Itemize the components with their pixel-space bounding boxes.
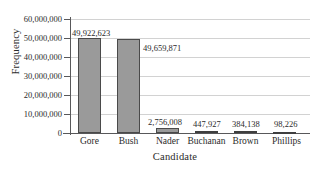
y-tick-60000000 (64, 19, 71, 20)
bar-brown (234, 131, 257, 133)
x-tick-label-brown: Brown (225, 136, 266, 146)
x-axis-title: Candidate (120, 151, 230, 162)
x-tick-label-nader: Nader (147, 136, 188, 146)
y-tick-20000000 (64, 95, 71, 96)
value-label-brown: 384,138 (232, 119, 260, 129)
bar-buchanan (195, 131, 218, 133)
value-label-nader: 2,756,008 (148, 117, 182, 127)
y-tick-0 (64, 133, 71, 134)
y-tick-10000000 (64, 114, 71, 115)
y-tick-label-40000000: 40,000,000 (4, 52, 62, 62)
y-tick-30000000 (64, 76, 71, 77)
gridline-10000000 (71, 114, 310, 115)
gridline-20000000 (71, 95, 310, 96)
bar-phillips (273, 132, 296, 134)
gridline-40000000 (71, 57, 310, 58)
y-tick-label-0: 0 (4, 128, 62, 138)
value-label-phillips: 98,226 (274, 119, 297, 129)
value-label-bush: 49,659,871 (143, 43, 181, 53)
bar-nader (156, 128, 179, 133)
gridline-60000000 (71, 19, 310, 20)
bar-chart: Frequency 60,000,000 50,000,000 40,000,0… (0, 0, 313, 171)
value-label-buchanan: 447,927 (193, 119, 221, 129)
y-tick-label-50000000: 50,000,000 (4, 33, 62, 43)
gridline-30000000 (71, 76, 310, 77)
y-tick-50000000 (64, 38, 71, 39)
x-tick-label-gore: Gore (69, 136, 110, 146)
bar-bush (117, 39, 140, 133)
x-tick-label-phillips: Phillips (264, 136, 309, 146)
y-tick-label-60000000: 60,000,000 (4, 14, 62, 24)
value-label-gore: 49,922,623 (72, 28, 110, 38)
x-tick-label-bush: Bush (108, 136, 149, 146)
y-tick-label-10000000: 10,000,000 (4, 109, 62, 119)
y-tick-label-20000000: 20,000,000 (4, 90, 62, 100)
x-tick-label-buchanan: Buchanan (184, 136, 229, 146)
bar-gore (78, 38, 101, 133)
y-tick-label-30000000: 30,000,000 (4, 71, 62, 81)
y-tick-40000000 (64, 57, 71, 58)
gridline-50000000 (71, 38, 310, 39)
